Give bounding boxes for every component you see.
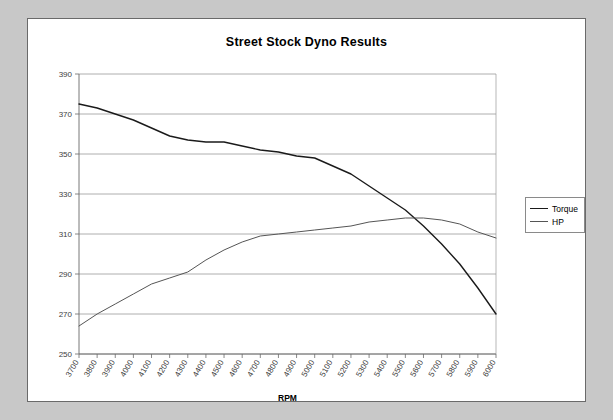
y-tick-label: 290	[59, 270, 73, 279]
y-tick-label: 310	[59, 230, 73, 239]
x-tick-label: 5700	[427, 358, 444, 378]
x-tick-label: 6000	[481, 358, 498, 378]
x-tick-label: 5000	[300, 358, 317, 378]
x-tick-label: 5900	[463, 358, 480, 378]
y-tick-labels-group: 250270290310330350370390	[59, 70, 73, 359]
x-tick-label: 4700	[245, 358, 262, 378]
series-line-torque	[79, 104, 496, 314]
x-tick-label: 4900	[282, 358, 299, 378]
legend-item[interactable]: Torque	[530, 202, 578, 215]
chart-plot-area: 250270290310330350370390 370038003900400…	[28, 19, 587, 403]
x-tick-label: 5500	[390, 358, 407, 378]
x-tick-label: 4800	[263, 358, 280, 378]
y-tick-label: 330	[59, 190, 73, 199]
x-tick-label: 4100	[137, 358, 154, 378]
x-tick-label: 5100	[318, 358, 335, 378]
x-tick-label: 3700	[64, 358, 81, 378]
x-tick-label: 4600	[227, 358, 244, 378]
y-tick-label: 390	[59, 70, 73, 79]
y-tick-label: 350	[59, 150, 73, 159]
x-tick-label: 5600	[409, 358, 426, 378]
axes-group	[75, 74, 496, 358]
x-tick-label: 5400	[372, 358, 389, 378]
x-tick-label: 4500	[209, 358, 226, 378]
y-tick-label: 370	[59, 110, 73, 119]
x-tick-label: 4200	[155, 358, 172, 378]
x-axis-title: RPM	[278, 393, 297, 403]
y-tick-label: 270	[59, 310, 73, 319]
y-tick-label: 250	[59, 350, 73, 359]
x-tick-label: 3900	[100, 358, 117, 378]
x-tick-labels-group: 3700380039004000410042004300440045004600…	[64, 358, 498, 378]
legend-item-label: Torque	[552, 204, 578, 214]
legend-swatch-icon	[530, 221, 548, 222]
x-tick-label: 5200	[336, 358, 353, 378]
x-tick-label: 3800	[82, 358, 99, 378]
series-lines-group	[79, 104, 496, 326]
legend-item-label: HP	[552, 217, 564, 227]
x-tick-label: 5800	[445, 358, 462, 378]
chart-legend: TorqueHP	[525, 197, 585, 233]
screenshot-root: Street Stock Dyno Results 25027029031033…	[0, 0, 613, 420]
gridlines-group	[79, 74, 496, 354]
legend-item[interactable]: HP	[530, 215, 578, 228]
x-tick-label: 4400	[191, 358, 208, 378]
x-tick-label: 4000	[118, 358, 135, 378]
chart-panel: Street Stock Dyno Results 25027029031033…	[27, 18, 586, 402]
x-tick-label: 5300	[354, 358, 371, 378]
legend-swatch-icon	[530, 208, 548, 209]
x-tick-label: 4300	[173, 358, 190, 378]
